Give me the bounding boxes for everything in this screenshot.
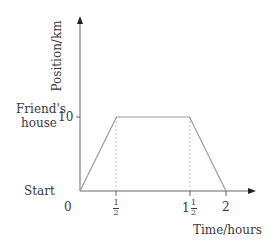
fraction-numerator: 1 [191, 199, 196, 207]
mixed-whole: 1 [182, 201, 190, 215]
fraction-denominator: 2 [113, 209, 118, 217]
friends-house-label-line2: house [21, 117, 57, 129]
x-tick-label-2: 2 [222, 201, 230, 213]
x-tick-label-0: 0 [64, 201, 72, 213]
fraction-denominator: 2 [191, 209, 196, 217]
x-axis-label: Time/hours [193, 224, 262, 236]
journey-line [80, 117, 226, 191]
start-label: Start [24, 185, 55, 197]
x-tick-label-one-and-half: 1 1 2 [182, 199, 197, 217]
y-tick-label-10: 10 [58, 111, 73, 123]
x-tick-label-half: 1 2 [113, 199, 119, 217]
y-axis-label: Position/km [50, 20, 64, 91]
fraction-numerator: 1 [113, 199, 118, 207]
